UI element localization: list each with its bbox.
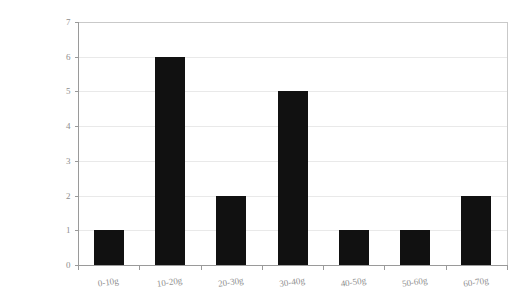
y-tick-label-0: 0 bbox=[66, 260, 71, 270]
y-tick-label-1: 1 bbox=[66, 225, 71, 235]
bar-40-50g bbox=[339, 230, 369, 265]
y-tick-label-5: 5 bbox=[66, 86, 71, 96]
bar-30-40g bbox=[278, 91, 308, 265]
y-tick-label-7: 7 bbox=[66, 17, 71, 27]
y-tick-label-3: 3 bbox=[66, 156, 71, 166]
y-tick-label-6: 6 bbox=[66, 52, 71, 62]
bar-chart-figure: 01234567 0-10g10-20g20-30g30-40g40-50g50… bbox=[0, 0, 521, 305]
bar-60-70g bbox=[461, 196, 491, 265]
chart-canvas: 01234567 0-10g10-20g20-30g30-40g40-50g50… bbox=[0, 0, 521, 305]
y-tick-label-4: 4 bbox=[66, 121, 71, 131]
bar-20-30g bbox=[216, 196, 246, 265]
bar-10-20g bbox=[155, 57, 185, 265]
bar-0-10g bbox=[94, 230, 124, 265]
bar-50-60g bbox=[400, 230, 430, 265]
y-tick-label-2: 2 bbox=[66, 191, 71, 201]
